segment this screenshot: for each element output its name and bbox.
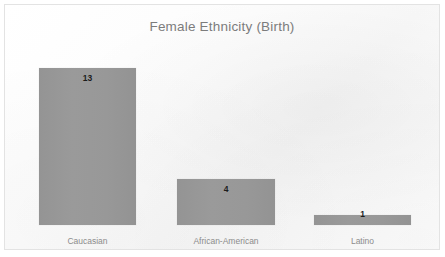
- category-label-caucasian: Caucasian: [19, 236, 156, 246]
- category-label-african-american: African-American: [157, 236, 295, 246]
- bar-value-african-american: 4: [177, 184, 275, 194]
- plot-area: 13 Caucasian 4 African-American 1 Latino: [5, 5, 440, 250]
- bar-caucasian[interactable]: [39, 68, 136, 225]
- bar-value-caucasian: 13: [39, 73, 136, 83]
- chart-container: Female Ethnicity (Birth) 13 Caucasian 4 …: [4, 4, 440, 250]
- category-label-latino: Latino: [294, 236, 431, 246]
- bar-value-latino: 1: [314, 209, 411, 219]
